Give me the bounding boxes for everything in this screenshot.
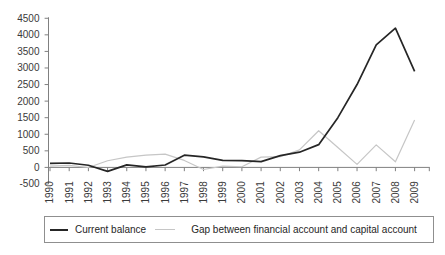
legend-line-current-balance-icon xyxy=(50,229,68,231)
y-axis-tick-label: 3500 xyxy=(17,46,40,57)
x-axis-tick-label: 1990 xyxy=(44,181,55,204)
x-axis-tick-label: 1994 xyxy=(121,181,132,204)
x-axis-tick-label: 2004 xyxy=(313,181,324,204)
y-axis-tick-label: 500 xyxy=(23,145,40,156)
y-axis-tick-label: 4000 xyxy=(17,29,40,40)
legend-label-current-balance: Current balance xyxy=(75,224,146,235)
x-axis-tick-label: 1992 xyxy=(83,181,94,204)
chart-legend: Current balance Gap between financial ac… xyxy=(44,216,434,243)
y-axis-tick-label: 1000 xyxy=(17,129,40,140)
x-axis-tick-label: 1999 xyxy=(217,181,228,204)
series-line-0 xyxy=(50,28,415,171)
series-line-1 xyxy=(50,120,415,169)
x-axis-tick-label: 2006 xyxy=(351,181,362,204)
legend-label-gap: Gap between financial account and capita… xyxy=(191,224,417,235)
x-axis-tick-label: 2000 xyxy=(236,181,247,204)
x-axis-tick-label: 1995 xyxy=(140,181,151,204)
x-axis-tick-label: 2009 xyxy=(409,181,420,204)
x-axis-tick-label: 1993 xyxy=(102,181,113,204)
x-axis-tick-label: 1991 xyxy=(64,181,75,204)
x-axis-tick-label: 2001 xyxy=(255,181,266,204)
y-axis-tick-label: 3000 xyxy=(17,62,40,73)
x-axis-tick-label: 2002 xyxy=(275,181,286,204)
x-axis-tick-label: 2003 xyxy=(294,181,305,204)
x-axis-tick-label: 1996 xyxy=(160,181,171,204)
y-axis-tick-label: 0 xyxy=(34,162,40,173)
x-axis-tick-label: 2005 xyxy=(332,181,343,204)
legend-line-gap-icon xyxy=(155,229,175,230)
x-axis-tick-label: 1997 xyxy=(179,181,190,204)
x-axis-tick-label: 2008 xyxy=(390,181,401,204)
y-axis-tick-label: 1500 xyxy=(17,112,40,123)
axes-lines xyxy=(49,17,430,184)
y-axis-tick-label: 4500 xyxy=(17,13,40,24)
x-axis-tick-label: 1998 xyxy=(198,181,209,204)
y-axis-tick-label: 2500 xyxy=(17,79,40,90)
chart-figure: 450040003500300025002000150010005000-500… xyxy=(0,0,445,255)
x-axis-tick-label: 2007 xyxy=(371,181,382,204)
y-axis-tick-label: -500 xyxy=(19,178,39,189)
y-axis-tick-label: 2000 xyxy=(17,96,40,107)
